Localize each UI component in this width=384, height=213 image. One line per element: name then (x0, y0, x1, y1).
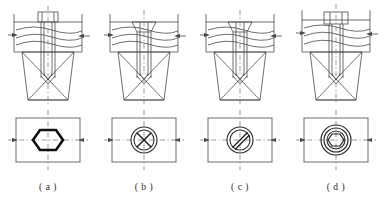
cross-recess-screw-section (104, 10, 186, 104)
panel-d-caption: ( d ) (288, 182, 384, 192)
panel-b-drawing (96, 0, 192, 180)
panel-c: ( c ) (192, 0, 288, 213)
slotted-screw-plan (200, 110, 280, 170)
panel-d: ( d ) (288, 0, 384, 213)
panel-a-caption: ( a ) (0, 182, 96, 192)
slotted-screw-section (200, 10, 282, 104)
socket-head-screw-section (296, 4, 378, 104)
hex-bolt-plan (8, 110, 88, 170)
panel-b-caption: ( b ) (96, 182, 192, 192)
socket-head-screw-plan (296, 110, 376, 170)
panel-a-drawing (0, 0, 96, 180)
panel-a: ( a ) (0, 0, 96, 213)
panel-c-caption: ( c ) (192, 182, 288, 192)
panel-c-drawing (192, 0, 288, 180)
figure-sheet: ( a ) (0, 0, 384, 213)
panel-b: ( b ) (96, 0, 192, 213)
hex-bolt-section (8, 6, 90, 104)
cross-recess-screw-plan (104, 110, 184, 170)
panel-d-drawing (288, 0, 384, 180)
